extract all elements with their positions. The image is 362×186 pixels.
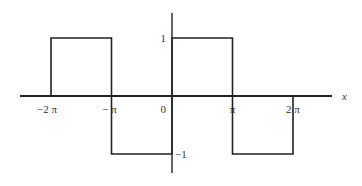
x-tick-label: −2 π — [37, 103, 57, 115]
square-wave-chart: −2 π− π0π2 π1−1x — [0, 0, 362, 186]
x-tick-label: 2 π — [286, 103, 300, 115]
y-tick-label: −1 — [175, 148, 187, 160]
y-tick-label: 1 — [161, 32, 167, 44]
x-tick-label: π — [230, 103, 236, 115]
x-axis-label: x — [341, 90, 347, 102]
x-tick-label: − π — [102, 103, 117, 115]
x-tick-label: 0 — [161, 103, 167, 115]
